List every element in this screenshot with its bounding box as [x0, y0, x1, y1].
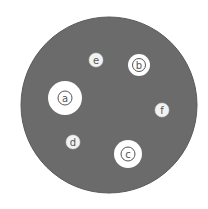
disk-label: a — [62, 93, 68, 104]
antibiotic-disk-d: d — [66, 135, 80, 149]
disk-label: c — [125, 149, 131, 160]
disk-label: f — [160, 105, 164, 116]
disk-label: b — [136, 60, 142, 71]
antibiotic-disk-e: e — [89, 53, 103, 67]
antibiotic-disk-b: b — [128, 54, 150, 76]
antibiotic-disk-a: a — [48, 81, 82, 115]
antibiotic-disk-f: f — [155, 103, 169, 117]
petri-dish-diagram: abcdef — [0, 0, 208, 209]
petri-dish — [21, 17, 197, 193]
antibiotic-disk-c: c — [114, 140, 142, 168]
disk-label: e — [93, 55, 99, 66]
disk-label: d — [70, 137, 76, 148]
